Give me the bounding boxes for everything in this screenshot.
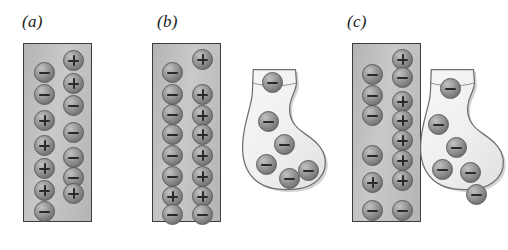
panel-c: (c) — [0, 0, 508, 250]
charge-glyph-horizontal — [465, 172, 476, 174]
sock-negative-charge-3 — [446, 137, 467, 158]
sock-c — [414, 64, 508, 197]
charge-glyph-horizontal — [367, 210, 378, 212]
slab-negative-charge-3 — [392, 67, 413, 88]
charge-glyph-horizontal — [367, 95, 378, 97]
slab-positive-charge-9 — [392, 150, 413, 171]
slab-negative-charge-2 — [362, 64, 383, 85]
charge-glyph-horizontal — [397, 77, 408, 79]
slab-positive-charge-12 — [362, 172, 383, 193]
charge-glyph-vertical — [402, 115, 404, 126]
charge-glyph-horizontal — [397, 210, 408, 212]
charge-glyph-vertical — [402, 54, 404, 65]
charge-glyph-horizontal — [445, 88, 456, 90]
slab-negative-charge-13 — [362, 200, 383, 221]
slab-positive-charge-11 — [392, 170, 413, 191]
slab-positive-charge-7 — [392, 110, 413, 131]
slab-positive-charge-8 — [392, 130, 413, 151]
sock-negative-charge-1 — [440, 78, 461, 99]
slab-positive-charge-5 — [392, 91, 413, 112]
charge-glyph-vertical — [402, 135, 404, 146]
charge-glyph-horizontal — [471, 194, 482, 196]
sock-negative-charge-2 — [428, 114, 449, 135]
charge-glyph-horizontal — [433, 124, 444, 126]
physics-figure: (a)(b)(c) — [0, 0, 508, 250]
charge-glyph-vertical — [402, 96, 404, 107]
sock-negative-charge-5 — [460, 162, 481, 183]
charge-glyph-vertical — [372, 177, 374, 188]
slab-negative-charge-14 — [392, 200, 413, 221]
charge-glyph-horizontal — [451, 147, 462, 149]
charge-glyph-horizontal — [367, 74, 378, 76]
slab-negative-charge-10 — [362, 145, 383, 166]
slab-negative-charge-4 — [362, 85, 383, 106]
charge-glyph-horizontal — [437, 169, 448, 171]
sock-negative-charge-6 — [466, 184, 487, 205]
charge-glyph-vertical — [402, 155, 404, 166]
charge-glyph-vertical — [402, 175, 404, 186]
charge-glyph-horizontal — [367, 155, 378, 157]
charge-glyph-horizontal — [367, 115, 378, 117]
slab-negative-charge-6 — [362, 105, 383, 126]
panel-label-c: (c) — [347, 12, 367, 32]
sock-negative-charge-4 — [432, 159, 453, 180]
